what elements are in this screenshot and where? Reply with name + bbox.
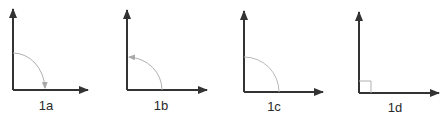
angle-diagram-figure: 1a 1b 1c 1d bbox=[0, 0, 448, 119]
panel-1b: 1b bbox=[127, 10, 207, 113]
panel-1d: 1d bbox=[359, 12, 439, 115]
panel-label: 1a bbox=[39, 98, 54, 113]
panel-1c: 1c bbox=[244, 11, 323, 114]
panel-label: 1d bbox=[388, 100, 402, 115]
clockwise-arc-arrow-icon bbox=[13, 53, 45, 88]
panel-1a: 1a bbox=[13, 9, 88, 113]
counterclockwise-arc-arrow-icon bbox=[129, 57, 162, 90]
panel-label: 1b bbox=[154, 98, 168, 113]
panel-label: 1c bbox=[267, 99, 281, 114]
right-angle-marker-icon bbox=[359, 81, 371, 93]
angle-arc bbox=[244, 57, 279, 92]
